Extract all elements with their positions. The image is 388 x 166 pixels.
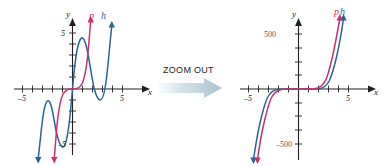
- curve-label-h-right: h: [340, 6, 345, 17]
- y-axis-label-right: y: [291, 9, 296, 19]
- x-tick-label-right-neg5: –5: [243, 94, 252, 103]
- x-tick-label-right-pos5: 5: [346, 94, 350, 103]
- x-axis-left: [14, 86, 150, 93]
- curve-label-h-left: h: [101, 10, 106, 21]
- y-tick-label-right-neg500: –500: [275, 140, 292, 149]
- zoom-out-transition: ZOOM OUT: [158, 0, 228, 166]
- y-axis-label-left: y: [65, 9, 70, 19]
- curve-label-p-right: p: [333, 6, 339, 17]
- x-axis-label-right: x: [373, 87, 378, 97]
- y-tick-label-left-pos5: 5: [61, 29, 65, 38]
- zoom-out-label: ZOOM OUT: [163, 65, 214, 75]
- zoom-out-figure: x y –5 5 5 –5 p h ZOOM OUT: [0, 0, 388, 166]
- zoomed-in-graph: x y –5 5 5 –5 p h: [0, 0, 160, 166]
- y-tick-label-right-pos500: 500: [264, 30, 276, 39]
- curve-h-left: [35, 21, 115, 164]
- y-tick-label-left-neg5: –5: [57, 140, 66, 149]
- x-tick-label-left-pos5: 5: [120, 94, 124, 103]
- zoom-out-arrow-icon: [158, 78, 222, 98]
- x-tick-label-left-neg5: –5: [17, 94, 26, 103]
- x-axis-label-left: x: [147, 87, 152, 97]
- zoomed-out-graph: x y –5 5 500 –500 p h: [228, 0, 388, 166]
- curve-label-p-left: p: [88, 10, 94, 21]
